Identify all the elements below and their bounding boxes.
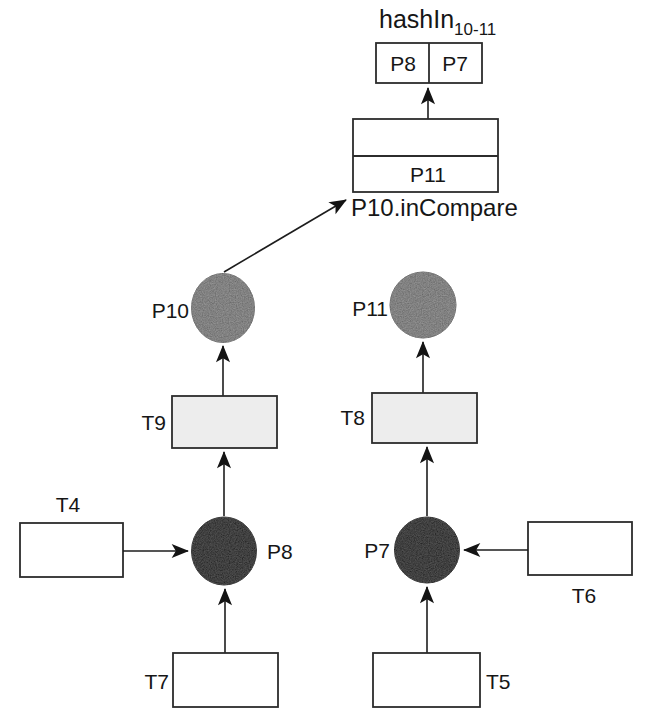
place-p11-circle: [390, 272, 456, 338]
transition-t4-label: T4: [56, 493, 81, 516]
place-p10: P10: [152, 274, 255, 343]
place-p8-circle: [192, 517, 257, 585]
hash-title-subscript: 10-11: [454, 20, 496, 39]
compare-queue: P11: [353, 119, 498, 192]
transition-t9-rect: [172, 396, 277, 448]
transition-t8-label: T8: [340, 406, 365, 429]
arrow-p10-to-queue: [224, 200, 346, 272]
place-p11: P11: [352, 272, 456, 338]
transition-t6: T6: [528, 522, 632, 607]
place-p8-label: P8: [267, 540, 293, 563]
transition-t5: T5: [373, 653, 511, 707]
transition-t5-rect: [373, 653, 480, 707]
place-p10-circle: [192, 274, 255, 343]
place-p8: P8: [192, 517, 293, 585]
transition-t9-label: T9: [141, 411, 166, 434]
place-p7: P7: [364, 517, 459, 583]
transition-t6-label: T6: [572, 584, 597, 607]
transition-t8-rect: [372, 393, 477, 443]
transition-t5-label: T5: [486, 670, 511, 693]
compare-queue-caption: P10.inCompare: [351, 194, 518, 221]
transition-t9: T9: [141, 396, 277, 448]
compare-queue-entry: P11: [410, 163, 446, 186]
transition-t7-label: T7: [144, 670, 169, 693]
hash-cell-p7: P7: [442, 52, 468, 75]
transition-t6-rect: [528, 522, 632, 575]
place-p7-label: P7: [364, 539, 390, 562]
hash-title: hashIn10-11: [379, 5, 496, 39]
hash-title-base: hashIn: [379, 5, 454, 33]
transition-t7: T7: [144, 653, 278, 707]
transition-t4-rect: [20, 523, 123, 577]
transition-t8: T8: [340, 393, 477, 443]
transition-t4: T4: [20, 493, 123, 577]
hash-table: P8 P7: [376, 43, 482, 83]
transition-t7-rect: [173, 653, 278, 707]
place-p7-circle: [395, 517, 460, 583]
petri-net-diagram: hashIn10-11 P8 P7 P11 P10.inCompare P10 …: [0, 0, 651, 725]
place-p10-label: P10: [152, 299, 189, 322]
hash-cell-p8: P8: [390, 52, 416, 75]
place-p11-label: P11: [352, 297, 388, 320]
